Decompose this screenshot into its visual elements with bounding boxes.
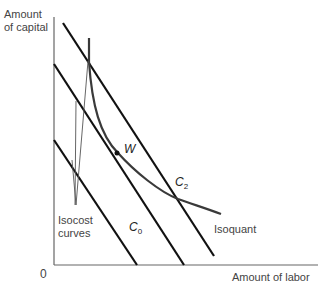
isocost-label: Isocost curves	[58, 214, 93, 240]
point-w-label: W	[124, 143, 135, 156]
isoquant-diagram	[0, 0, 334, 300]
isocost-label-line2: curves	[58, 227, 93, 240]
y-axis-label-line1: Amount	[4, 8, 48, 21]
c0-label: C0	[129, 221, 142, 238]
y-axis-label-line2: of capital	[4, 21, 48, 34]
c0-letter: C	[129, 220, 138, 234]
c0-subscript: 0	[138, 227, 142, 236]
x-axis-label: Amount of labor	[232, 271, 310, 284]
isoquant-curve	[89, 38, 221, 214]
y-axis-label: Amount of capital	[4, 8, 48, 34]
isocost-label-line1: Isocost	[58, 214, 93, 227]
isoquant-label: Isoquant	[214, 223, 256, 236]
pointer-line-1	[75, 101, 76, 205]
tangency-point-w	[115, 151, 120, 156]
origin-label: 0	[40, 268, 47, 281]
c2-subscript: 2	[184, 182, 188, 191]
c2-label: C2	[175, 176, 188, 193]
c2-letter: C	[175, 175, 184, 189]
